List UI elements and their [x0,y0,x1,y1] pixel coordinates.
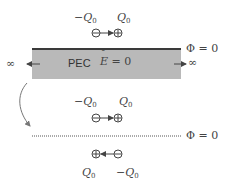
plus-charge-icon [114,114,122,122]
minus-charge-icon [92,114,100,122]
plus-charge-icon [92,150,100,158]
top-dipole [92,29,122,37]
diagram-graphics [0,0,228,185]
minus-charge-icon [92,29,100,37]
minus-charge-icon [114,150,122,158]
image-dipole [92,150,122,158]
equivalent-dipole [92,114,122,122]
plus-charge-icon [114,29,122,37]
curved-arrow-icon [20,83,30,126]
